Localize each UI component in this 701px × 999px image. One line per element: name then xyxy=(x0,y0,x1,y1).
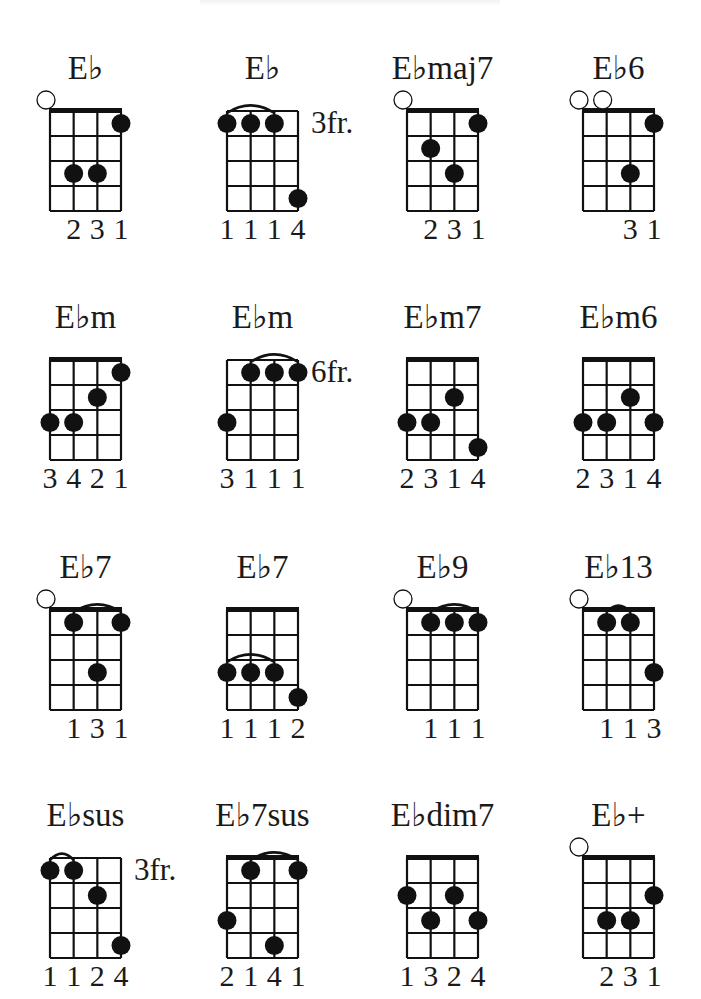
nut xyxy=(49,108,122,113)
finger-dot xyxy=(289,363,308,382)
chord-diagram: E♭7131 xyxy=(37,549,131,744)
finger-number: 1 xyxy=(267,461,282,494)
nut xyxy=(582,357,655,362)
finger-number: 4 xyxy=(647,461,662,494)
finger-dot xyxy=(289,688,308,707)
finger-number: 1 xyxy=(243,461,258,494)
finger-dot xyxy=(88,388,107,407)
finger-number: 2 xyxy=(291,711,306,744)
open-string-icon xyxy=(594,91,612,109)
finger-number: 1 xyxy=(471,212,486,245)
finger-dot xyxy=(289,861,308,880)
chord-name: E♭maj7 xyxy=(392,50,494,86)
nut xyxy=(406,108,479,113)
finger-number: 4 xyxy=(471,959,486,992)
finger-number: 1 xyxy=(447,461,462,494)
finger-dot xyxy=(289,189,308,208)
nut xyxy=(49,357,122,362)
finger-dot xyxy=(421,613,440,632)
finger-number: 3 xyxy=(90,711,105,744)
finger-number: 1 xyxy=(220,212,235,245)
finger-dot xyxy=(469,438,488,457)
finger-dot xyxy=(621,613,640,632)
fret-position-label: 6fr. xyxy=(311,354,353,389)
finger-number: 4 xyxy=(291,212,306,245)
finger-number: 1 xyxy=(114,212,129,245)
finger-number: 2 xyxy=(447,959,462,992)
finger-dot xyxy=(421,139,440,158)
chord-name: E♭7sus xyxy=(215,797,309,833)
open-string-icon xyxy=(37,590,55,608)
finger-number: 1 xyxy=(471,711,486,744)
finger-dot xyxy=(64,164,83,183)
finger-dot xyxy=(265,663,284,682)
nut xyxy=(582,607,655,612)
chord-name: E♭dim7 xyxy=(391,797,495,833)
fret-position-label: 3fr. xyxy=(311,105,353,140)
finger-dot xyxy=(112,613,131,632)
nut xyxy=(406,357,479,362)
finger-number: 2 xyxy=(220,959,235,992)
finger-number: 3 xyxy=(623,959,638,992)
finger-number: 4 xyxy=(471,461,486,494)
finger-number: 1 xyxy=(647,212,662,245)
open-string-icon xyxy=(394,91,412,109)
finger-dot xyxy=(241,861,260,880)
chord-diagram: E♭sus3fr.1124 xyxy=(41,797,177,992)
finger-dot xyxy=(88,663,107,682)
finger-number: 1 xyxy=(267,212,282,245)
finger-number: 1 xyxy=(623,711,638,744)
finger-dot xyxy=(112,114,131,133)
finger-dot xyxy=(597,911,616,930)
chord-name: E♭sus xyxy=(47,797,125,833)
finger-dot xyxy=(41,861,60,880)
finger-number: 2 xyxy=(66,212,81,245)
chord-diagram: E♭dim71324 xyxy=(391,797,495,992)
finger-number: 2 xyxy=(576,461,591,494)
nut xyxy=(582,855,655,860)
chord-diagram: E♭3fr.1114 xyxy=(218,50,354,245)
finger-dot xyxy=(112,363,131,382)
chord-diagram: E♭13113 xyxy=(570,549,664,744)
finger-dot xyxy=(445,388,464,407)
finger-dot xyxy=(241,663,260,682)
finger-dot xyxy=(445,613,464,632)
chord-diagram: E♭231 xyxy=(37,50,131,245)
finger-dot xyxy=(469,114,488,133)
finger-number: 2 xyxy=(90,461,105,494)
finger-dot xyxy=(64,413,83,432)
open-string-icon xyxy=(37,91,55,109)
open-string-icon xyxy=(394,590,412,608)
finger-number: 1 xyxy=(220,711,235,744)
chord-name: E♭7 xyxy=(236,549,288,585)
chord-chart-page: E♭231E♭3fr.1114E♭maj7231E♭631E♭m3421E♭m6… xyxy=(0,0,701,999)
finger-dot xyxy=(421,911,440,930)
chord-diagram: E♭m72314 xyxy=(398,299,488,494)
chord-diagram: E♭m3421 xyxy=(41,299,131,494)
finger-dot xyxy=(621,911,640,930)
fret-position-label: 3fr. xyxy=(134,852,176,887)
finger-dot xyxy=(265,936,284,955)
finger-dot xyxy=(398,413,417,432)
finger-number: 1 xyxy=(43,959,58,992)
finger-dot xyxy=(445,164,464,183)
finger-number: 1 xyxy=(243,959,258,992)
finger-number: 1 xyxy=(114,461,129,494)
finger-dot xyxy=(597,613,616,632)
finger-dot xyxy=(398,886,417,905)
finger-number: 1 xyxy=(114,711,129,744)
chord-diagram: E♭9111 xyxy=(394,549,488,744)
nut xyxy=(582,108,655,113)
finger-number: 3 xyxy=(647,711,662,744)
finger-number: 1 xyxy=(267,711,282,744)
finger-number: 3 xyxy=(599,461,614,494)
finger-dot xyxy=(218,413,237,432)
finger-number: 3 xyxy=(623,212,638,245)
open-string-icon xyxy=(570,91,588,109)
chord-name: E♭9 xyxy=(416,549,468,585)
finger-dot xyxy=(265,363,284,382)
finger-number: 1 xyxy=(291,959,306,992)
finger-dot xyxy=(469,613,488,632)
chord-name: E♭7 xyxy=(59,549,111,585)
chord-diagram: E♭+231 xyxy=(570,797,664,992)
